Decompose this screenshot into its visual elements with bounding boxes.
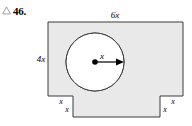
radius-label: x (99, 51, 104, 61)
left-height-label: 4x (37, 54, 46, 64)
top-width-label: 6x (111, 10, 120, 20)
right-notch-depth-label: x (162, 105, 167, 114)
left-notch-width-label: x (58, 97, 63, 106)
circle-center-dot (92, 59, 98, 65)
right-notch-width-label: x (170, 97, 175, 106)
geometry-figure: 6x 4x x x x x x (0, 0, 192, 126)
left-notch-depth-label: x (64, 105, 69, 114)
figure-page: 46. 6x 4x x x x x x (0, 0, 192, 126)
